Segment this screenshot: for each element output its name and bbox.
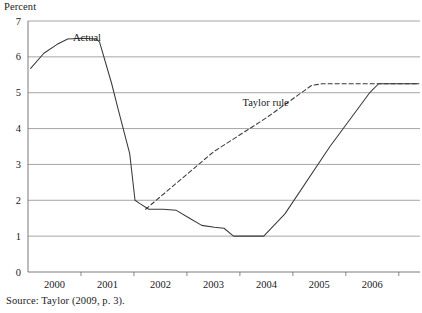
x-axis-tick-label: 2003 — [203, 279, 224, 290]
series-line-actual — [31, 38, 419, 236]
x-axis-tick-label: 2001 — [97, 279, 118, 290]
y-axis-tick-label: 3 — [16, 159, 21, 170]
data-series-group — [31, 38, 419, 236]
y-axis-tick-label: 4 — [16, 123, 22, 134]
x-axis-tick-label: 2000 — [44, 279, 65, 290]
annotation-label: Taylor rule — [243, 97, 290, 108]
x-axis-tick-label: 2006 — [362, 279, 383, 290]
y-axis-tick-label: 1 — [16, 231, 21, 242]
source-note: Source: Taylor (2009, p. 3). — [6, 294, 125, 307]
x-axis-tick-label: 2004 — [256, 279, 278, 290]
y-axis-tick-label: 6 — [16, 51, 21, 62]
gridlines-group — [28, 21, 420, 236]
y-axis-tick-label: 2 — [16, 195, 21, 206]
x-axis-tick-label: 2005 — [309, 279, 330, 290]
x-axis-tick-label: 2002 — [150, 279, 171, 290]
y-axis-tick-label: 0 — [16, 267, 21, 278]
figure-container: Percent 01234567 20002001200220032004200… — [0, 0, 422, 313]
y-axis-tick-label: 7 — [16, 16, 21, 27]
x-axis-tick-labels: 2000200120022003200420052006 — [44, 272, 399, 290]
y-axis-unit-label: Percent — [4, 1, 36, 13]
y-axis-tick-labels: 01234567 — [16, 16, 22, 278]
y-axis-tick-label: 5 — [16, 87, 21, 98]
series-annotations-group: ActualTaylor rule — [73, 32, 289, 109]
line-chart: 01234567 2000200120022003200420052006 Ac… — [0, 0, 422, 290]
annotation-label: Actual — [73, 32, 101, 43]
